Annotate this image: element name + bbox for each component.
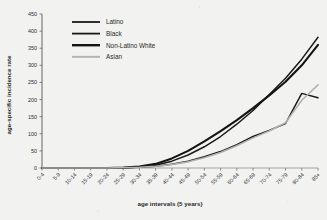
- line-chart: 050100150200250300350400450 0-45-910-141…: [0, 0, 327, 220]
- y-tick-label-400: 400: [28, 28, 37, 34]
- y-axis-title: age-specific incidence rate: [5, 55, 12, 135]
- y-tick-label-50: 50: [31, 148, 37, 154]
- y-tick-label-250: 250: [28, 79, 37, 85]
- y-tick-label-100: 100: [28, 131, 37, 137]
- y-tick-label-150: 150: [28, 114, 37, 120]
- legend-label-non-latino-white: Non-Latino White: [106, 42, 156, 49]
- x-tick-label-40-44: 40-44: [161, 171, 175, 185]
- x-axis-tick-labels: 0-45-910-1415-1920-2425-2930-3435-3940-4…: [35, 171, 321, 185]
- axis-lines: [42, 14, 318, 168]
- x-tick-label-45-49: 45-49: [177, 171, 191, 185]
- y-tick-label-450: 450: [28, 11, 37, 17]
- legend-label-asian: Asian: [106, 53, 122, 60]
- legend-label-latino: Latino: [106, 18, 124, 25]
- x-tick-label-5-9: 5-9: [52, 171, 62, 181]
- x-tick-label-25-29: 25-29: [112, 171, 126, 185]
- series-line-latino: [42, 93, 318, 168]
- y-tick-label-350: 350: [28, 45, 37, 51]
- x-tick-label-20-24: 20-24: [96, 171, 110, 185]
- x-tick-label-85+: 85+: [310, 171, 321, 182]
- x-tick-label-30-34: 30-34: [129, 171, 143, 185]
- x-tick-label-75-79: 75-79: [275, 171, 289, 185]
- chart-legend: LatinoBlackNon-Latino WhiteAsian: [72, 18, 156, 60]
- y-tick-label-0: 0: [34, 165, 37, 171]
- x-axis-title: age intervals (5 years): [137, 200, 202, 207]
- x-tick-label-80-84: 80-84: [291, 171, 305, 185]
- x-tick-label-65-69: 65-69: [242, 171, 256, 185]
- x-tick-label-0-4: 0-4: [35, 171, 45, 181]
- x-tick-label-70-74: 70-74: [259, 171, 273, 185]
- x-tick-label-50-54: 50-54: [194, 171, 208, 185]
- y-tick-label-300: 300: [28, 62, 37, 68]
- x-tick-label-10-14: 10-14: [64, 171, 78, 185]
- x-tick-label-60-64: 60-64: [226, 171, 240, 185]
- y-tick-label-200: 200: [28, 97, 37, 103]
- series-line-non-latino-white: [42, 45, 318, 168]
- y-axis-tick-labels: 050100150200250300350400450: [28, 11, 37, 171]
- chart-figure: 050100150200250300350400450 0-45-910-141…: [0, 0, 327, 220]
- legend-label-black: Black: [106, 30, 122, 37]
- x-tick-label-55-59: 55-59: [210, 171, 224, 185]
- x-tick-label-15-19: 15-19: [80, 171, 94, 185]
- x-tick-label-35-39: 35-39: [145, 171, 159, 185]
